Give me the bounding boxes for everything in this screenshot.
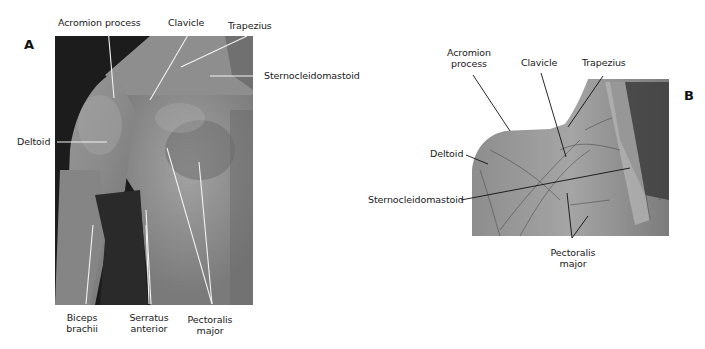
label-b-sternocleidomastoid: Sternocleidomastoid bbox=[368, 194, 464, 205]
panel-b-letter: B bbox=[684, 88, 694, 103]
label-b-pectoralis-major: Pectoralis major bbox=[548, 247, 598, 269]
label-b-clavicle: Clavicle bbox=[521, 57, 557, 68]
label-b-deltoid: Deltoid bbox=[430, 148, 463, 159]
label-a-clavicle: Clavicle bbox=[168, 17, 204, 28]
label-a-biceps-brachii: Biceps brachii bbox=[64, 312, 100, 334]
panel-b-photo bbox=[472, 79, 669, 236]
label-a-deltoid: Deltoid bbox=[17, 136, 50, 147]
label-a-acromion-process: Acromion process bbox=[58, 17, 141, 28]
label-a-serratus-anterior: Serratus anterior bbox=[128, 312, 170, 334]
label-b-acromion-process: Acromion process bbox=[444, 47, 494, 69]
panel-a-letter: A bbox=[24, 37, 34, 52]
label-a-pectoralis-major: Pectoralis major bbox=[185, 314, 235, 336]
figure-artwork bbox=[0, 0, 705, 349]
label-a-trapezius: Trapezius bbox=[228, 20, 272, 31]
label-a-sternocleidomastoid: Sternocleidomastoid bbox=[264, 70, 360, 81]
label-b-trapezius: Trapezius bbox=[582, 57, 626, 68]
